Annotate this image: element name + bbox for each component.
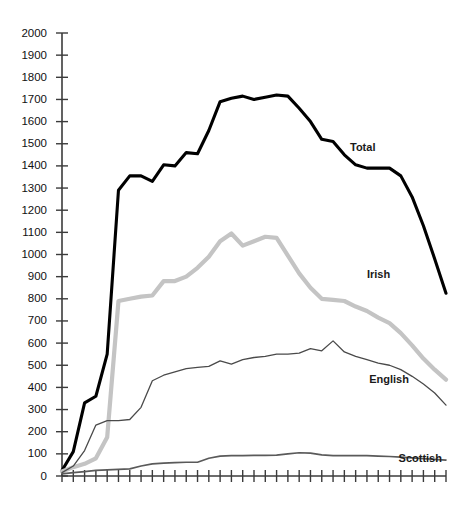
x-axis (62, 470, 446, 482)
y-tick-label: 1200 (21, 204, 47, 216)
y-tick-label: 0 (41, 470, 47, 482)
data-series-group (62, 95, 446, 474)
y-tick-label: 1800 (21, 71, 47, 83)
y-axis: 0100200300400500600700800900100011001200… (21, 27, 68, 482)
y-tick-label: 1900 (21, 49, 47, 61)
series-label-total: Total (350, 141, 375, 153)
y-tick-label: 700 (28, 314, 47, 326)
y-tick-label: 1000 (21, 248, 47, 260)
y-tick-label: 900 (28, 270, 47, 282)
series-line-english (62, 341, 446, 473)
series-label-group: TotalIrishEnglishScottish (350, 141, 442, 464)
y-tick-label: 1700 (21, 93, 47, 105)
line-chart: 0100200300400500600700800900100011001200… (0, 0, 467, 512)
y-tick-label: 400 (28, 381, 47, 393)
y-tick-label: 800 (28, 292, 47, 304)
y-tick-label: 1100 (22, 226, 47, 238)
series-line-total (62, 95, 446, 470)
y-tick-label: 1600 (21, 115, 47, 127)
y-tick-label: 1400 (21, 159, 47, 171)
y-tick-label: 600 (28, 337, 47, 349)
y-tick-label: 100 (28, 447, 47, 459)
y-tick-label: 500 (28, 359, 47, 371)
series-label-scottish: Scottish (399, 452, 443, 464)
y-tick-label: 200 (28, 425, 47, 437)
series-label-irish: Irish (367, 268, 391, 280)
y-tick-label: 2000 (21, 27, 47, 39)
y-tick-label: 300 (28, 403, 47, 415)
chart-container: 0100200300400500600700800900100011001200… (0, 0, 467, 512)
y-tick-label: 1300 (21, 182, 47, 194)
y-tick-label: 1500 (21, 137, 47, 149)
series-label-english: English (369, 373, 409, 385)
